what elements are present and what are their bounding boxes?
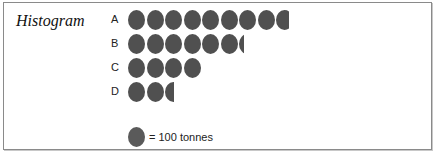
tonne-icon [184,58,203,78]
tonne-icon [202,10,221,30]
legend-text: = 100 tonnes [149,131,213,143]
tonne-icon [128,34,147,54]
tonne-icon [147,82,166,102]
tonne-icon [239,10,258,30]
tonne-icon [147,58,166,78]
row-label: D [111,85,123,97]
row-label: A [111,13,123,25]
tonne-icon [276,10,295,30]
tonne-icon [128,10,147,30]
tonne-icon [165,34,184,54]
tonne-icon [258,10,277,30]
tonne-icon [128,127,145,147]
tonne-icon [147,34,166,54]
row-label: C [111,61,123,73]
tonne-icon [147,10,166,30]
tonne-icon [165,82,184,102]
icon-row [128,82,184,102]
tonne-icon [165,58,184,78]
tonne-icon [221,34,240,54]
icon-row [128,58,202,78]
tonne-icon [128,58,147,78]
tonne-icon [184,10,203,30]
tonne-icon [202,34,221,54]
tonne-icon [184,34,203,54]
icon-row [128,34,258,54]
icon-row [128,10,295,30]
tonne-icon [221,10,240,30]
chart-frame: Histogram A B C D = 100 tonnes [3,2,432,150]
tonne-icon [128,82,147,102]
row-label: B [111,37,123,49]
tonne-icon [239,34,258,54]
chart-title: Histogram [16,12,84,30]
tonne-icon [165,10,184,30]
